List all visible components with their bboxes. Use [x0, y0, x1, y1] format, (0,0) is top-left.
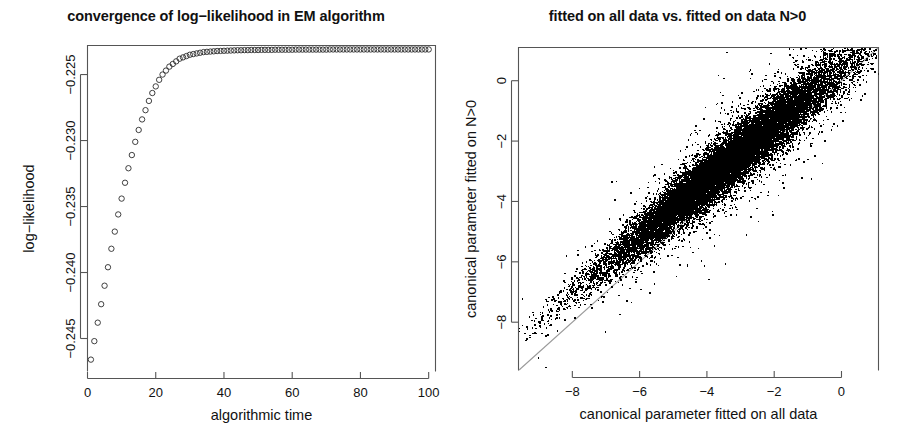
- em-data-point: [146, 98, 151, 103]
- em-data-point: [92, 338, 97, 343]
- em-data-point: [126, 166, 131, 171]
- em-data-point: [426, 47, 431, 52]
- x-axis-title-right: canonical parameter fitted on all data: [580, 406, 819, 422]
- em-data-point: [133, 139, 138, 144]
- x-tick-label-right: −8: [565, 384, 580, 399]
- em-data-point: [184, 53, 189, 58]
- x-tick-label-left: 0: [84, 385, 91, 400]
- figure-container: convergence of log−likelihood in EM algo…: [0, 0, 903, 446]
- em-data-point: [129, 152, 134, 157]
- x-tick-label-left: 60: [285, 385, 299, 400]
- x-tick-label-right: −4: [699, 384, 714, 399]
- y-axis-title-right: canonical parameter fitted on N>0: [463, 100, 479, 318]
- x-axis-title-left: algorithmic time: [211, 407, 313, 423]
- em-data-point: [156, 77, 161, 82]
- em-data-point: [98, 301, 103, 306]
- y-tick-label-right: −2: [495, 134, 510, 149]
- em-data-point: [122, 180, 127, 185]
- y-axis-title-left: log−likelihood: [21, 164, 37, 252]
- y-tick-label-right: −8: [495, 315, 510, 330]
- panel-fitted-comparison: fitted on all data vs. fitted on data N>…: [452, 0, 903, 446]
- y-tick-label-right: −6: [495, 254, 510, 269]
- y-tick-label-right: 0: [495, 77, 510, 84]
- plot-box-left: [88, 46, 436, 372]
- em-data-point: [95, 320, 100, 325]
- em-data-point: [105, 265, 110, 270]
- em-data-point: [180, 55, 185, 60]
- em-data-point: [116, 212, 121, 217]
- em-data-point: [88, 357, 93, 362]
- x-tick-label-right: 0: [838, 384, 845, 399]
- y-tick-label-left: −0.235: [64, 186, 79, 226]
- em-data-point: [119, 196, 124, 201]
- y-tick-label-left: −0.225: [64, 54, 79, 94]
- panel-em-convergence: convergence of log−likelihood in EM algo…: [0, 0, 452, 446]
- x-tick-label-left: 40: [217, 385, 231, 400]
- x-tick-label-right: −2: [767, 384, 782, 399]
- em-data-point: [153, 84, 158, 89]
- y-tick-label-left: −0.245: [64, 318, 79, 358]
- em-data-point: [112, 229, 117, 234]
- em-data-point: [136, 127, 141, 132]
- x-tick-label-left: 100: [418, 385, 440, 400]
- em-data-point: [102, 283, 107, 288]
- x-tick-label-left: 20: [149, 385, 163, 400]
- em-data-point: [109, 246, 114, 251]
- right-plot-svg: 0−2−4−6−8−8−6−4−20canonical parameter fi…: [452, 0, 903, 446]
- em-data-point: [150, 90, 155, 95]
- y-tick-label-left: −0.230: [64, 120, 79, 160]
- y-tick-label-right: −4: [495, 194, 510, 209]
- x-tick-label-right: −6: [632, 384, 647, 399]
- x-tick-label-left: 80: [353, 385, 367, 400]
- em-data-point: [143, 107, 148, 112]
- left-plot-svg: −0.225−0.230−0.235−0.240−0.2450204060801…: [0, 0, 452, 446]
- em-data-point: [139, 117, 144, 122]
- em-points-group: [88, 47, 431, 363]
- y-tick-label-left: −0.240: [64, 252, 79, 292]
